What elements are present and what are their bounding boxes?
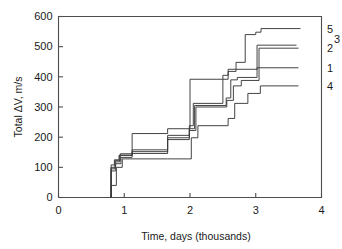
series-label-5: 5 (327, 23, 333, 35)
series-end-labels: 12345 (327, 23, 340, 92)
series-label-2: 2 (327, 42, 333, 54)
y-tick-label-300: 300 (34, 101, 52, 113)
y-axis-title: Total ΔV, m/s (12, 77, 24, 138)
x-tick-label-4: 4 (318, 204, 324, 216)
y-tick-label-600: 600 (34, 10, 52, 22)
series-label-3: 3 (334, 33, 340, 45)
series-label-1: 1 (327, 62, 333, 74)
y-tick-label-500: 500 (34, 40, 52, 52)
chart-figure: 0100200300400500600 01234 12345 Total ΔV… (0, 0, 342, 249)
y-tick-label-200: 200 (34, 131, 52, 143)
series-line-2 (111, 48, 298, 197)
x-axis-title: Time, days (thousands) (141, 230, 250, 242)
series-group (111, 29, 300, 198)
series-label-4: 4 (327, 80, 333, 92)
series-line-5 (111, 29, 300, 198)
series-line-4 (111, 86, 298, 198)
series-line-1 (111, 68, 298, 198)
x-tick-label-3: 3 (253, 204, 259, 216)
x-tick-label-0: 0 (55, 204, 61, 216)
delta-v-step-chart: 0100200300400500600 01234 12345 Total ΔV… (0, 0, 342, 249)
y-tick-label-400: 400 (34, 71, 52, 83)
x-tick-label-2: 2 (187, 204, 193, 216)
y-tick-label-100: 100 (34, 161, 52, 173)
x-axis-ticks: 01234 (55, 193, 324, 216)
x-tick-label-1: 1 (121, 204, 127, 216)
y-tick-label-0: 0 (46, 191, 52, 203)
